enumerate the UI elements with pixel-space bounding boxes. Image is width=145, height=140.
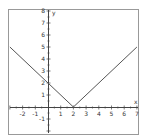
y-tick-label: 8 (41, 7, 45, 14)
x-tick-label: -2 (20, 110, 26, 117)
y-tick-label: 5 (41, 43, 45, 50)
x-tick-label: 5 (110, 110, 114, 117)
function-graph: -2-11234567-112345678 x y (0, 0, 145, 140)
y-tick-label: 7 (41, 19, 45, 26)
y-tick-label: -1 (39, 115, 45, 122)
x-tick-label: 3 (84, 110, 88, 117)
x-axis-label: x (134, 98, 138, 105)
x-tick-label: 7 (135, 110, 139, 117)
x-tick-label: -1 (32, 110, 38, 117)
x-tick-label: 2 (71, 110, 75, 117)
x-tick-label: 1 (59, 110, 63, 117)
x-tick-label: 4 (97, 110, 101, 117)
y-tick-label: 4 (41, 55, 45, 62)
y-tick-label: 1 (41, 91, 45, 98)
y-tick-label: 3 (41, 67, 45, 74)
x-tick-label: 6 (122, 110, 126, 117)
y-tick-label: 6 (41, 31, 45, 38)
y-axis-label: y (52, 9, 56, 17)
